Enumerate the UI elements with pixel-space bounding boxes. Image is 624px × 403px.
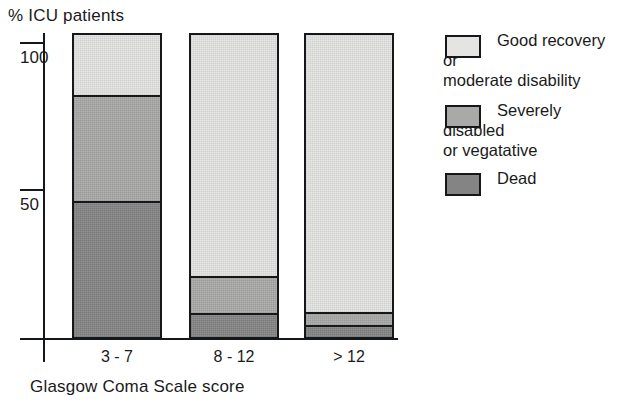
bar-segment-severely-disabled <box>306 312 392 325</box>
y-axis-title: % ICU patients <box>8 6 124 26</box>
bar-segment-dead <box>191 313 277 337</box>
x-tick-label-1: 8 - 12 <box>189 348 279 366</box>
bar-segment-good-recovery <box>306 35 392 312</box>
y-tick-mark-50 <box>20 189 45 191</box>
legend: Good recovery or moderate disability Sev… <box>443 30 621 222</box>
legend-label-dead: Dead <box>497 168 536 187</box>
legend-item-severely-disabled: Severely disabled or vegatative <box>443 100 621 160</box>
legend-swatch-severely-disabled <box>445 105 481 128</box>
x-axis-title: Glasgow Coma Scale score <box>30 377 245 397</box>
bar-category-2 <box>304 33 394 339</box>
legend-swatch-good-recovery <box>445 35 481 58</box>
legend-item-good-recovery: Good recovery or moderate disability <box>443 30 621 90</box>
chart-figure: % ICU patients 100 50 3 - 7 8 - 12 > 12 … <box>0 0 624 403</box>
y-tick-label-50: 50 <box>20 195 54 215</box>
y-tick-mark-100 <box>20 42 45 44</box>
bar-category-1 <box>189 33 279 339</box>
x-tick-label-0: 3 - 7 <box>72 348 162 366</box>
y-tick-label-100: 100 <box>20 48 54 68</box>
x-axis-origin-tick <box>43 338 45 362</box>
legend-item-dead: Dead <box>443 168 621 214</box>
bar-category-0 <box>72 33 162 339</box>
bar-segment-dead <box>74 201 160 337</box>
legend-swatch-dead <box>445 173 481 196</box>
bar-segment-dead <box>306 325 392 337</box>
bar-segment-good-recovery <box>74 35 160 95</box>
bar-segment-severely-disabled <box>74 95 160 201</box>
bar-segment-severely-disabled <box>191 276 277 313</box>
bar-segment-good-recovery <box>191 35 277 276</box>
x-tick-label-2: > 12 <box>304 348 394 366</box>
